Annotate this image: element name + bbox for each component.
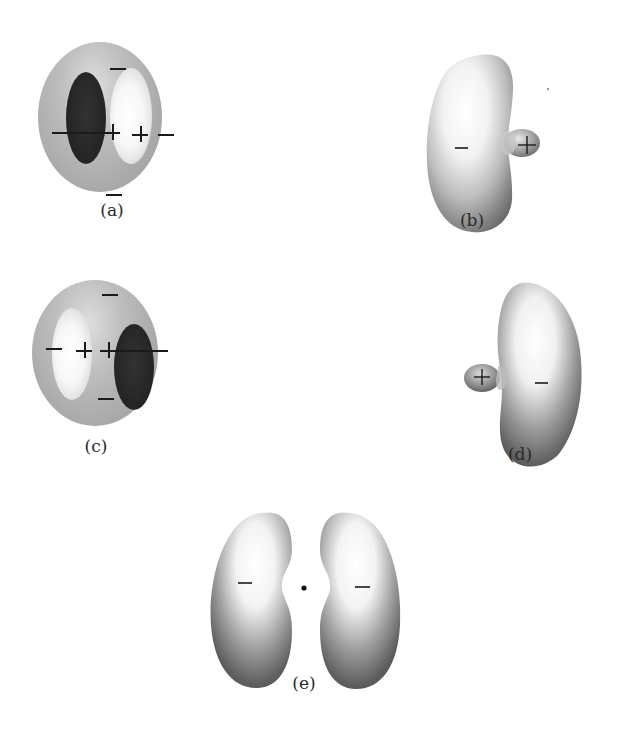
minus-sign-right-a xyxy=(158,134,174,136)
panel-label-c: (c) xyxy=(85,436,108,456)
minus-sign-left-a xyxy=(52,132,104,134)
panel-label-b: (b) xyxy=(460,210,484,230)
panel-c: (c) xyxy=(0,250,300,480)
minus-sign-right-c xyxy=(116,350,168,352)
dark-lobe-c xyxy=(114,324,154,410)
light-lobe-c xyxy=(52,308,92,400)
kidney-lobe-d xyxy=(380,250,617,480)
left-lobe-e xyxy=(211,512,292,688)
nucleus-dot xyxy=(301,585,306,590)
plus-sign-1-v-a xyxy=(112,124,114,140)
right-lobe-e xyxy=(320,512,400,689)
plus-sign-2-v-c xyxy=(108,342,110,358)
dark-lobe-a xyxy=(66,72,106,164)
panel-label-a: (a) xyxy=(100,200,123,220)
kidney-lobe-b xyxy=(380,0,617,250)
minus-sign-bottom-a xyxy=(106,194,122,196)
panel-d: (d) xyxy=(380,250,617,480)
plus-sign-1-v-c xyxy=(84,342,86,358)
twin-lobes-e xyxy=(180,495,440,733)
minus-sign-left-c xyxy=(46,348,62,350)
light-lobe-a xyxy=(110,68,152,164)
plus-sign-2-v-a xyxy=(140,126,142,142)
minus-sign-top-c xyxy=(102,294,118,296)
panel-a: (a) xyxy=(0,0,300,240)
minus-sign-top-a xyxy=(110,68,126,70)
panel-label-e: (e) xyxy=(292,673,315,693)
panel-e: (e) xyxy=(180,495,440,733)
minus-sign-bottom-c xyxy=(98,398,114,400)
panel-b: (b) xyxy=(380,0,617,250)
panel-label-d: (d) xyxy=(508,444,532,464)
